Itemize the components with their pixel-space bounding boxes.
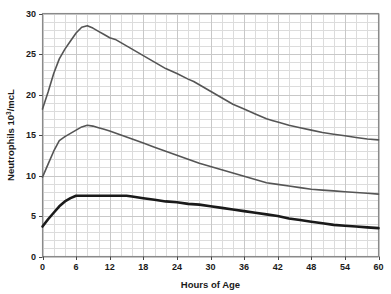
x-axis-tick-labels: 06121824303642485460 [40, 262, 384, 272]
x-tick-label: 48 [306, 262, 316, 272]
y-tick-label: 20 [26, 90, 36, 100]
y-tick-label: 0 [31, 252, 36, 262]
y-axis-tick-labels: 051015202530 [26, 9, 36, 262]
x-tick-label: 60 [373, 262, 383, 272]
series-line-upper-limit-curve [43, 26, 379, 140]
y-tick-label: 30 [26, 9, 36, 19]
x-tick-label: 6 [74, 262, 79, 272]
y-axis-title-text: Neutrophils 103/mcL [5, 89, 16, 181]
y-tick-label: 5 [31, 211, 36, 221]
x-tick-label: 54 [340, 262, 350, 272]
x-axis-title-text: Hours of Age [181, 279, 240, 290]
chart-canvas: 06121824303642485460 051015202530 Hours … [0, 0, 391, 294]
data-series-group [43, 26, 379, 229]
x-tick-label: 0 [40, 262, 45, 272]
major-gridlines [43, 14, 380, 258]
y-tick-label: 25 [26, 49, 36, 59]
y-axis-title: Neutrophils 103/mcL [5, 89, 16, 181]
x-tick-label: 36 [239, 262, 249, 272]
y-tick-label: 15 [26, 130, 36, 140]
x-tick-label: 24 [172, 262, 182, 272]
x-tick-label: 12 [105, 262, 115, 272]
x-tick-label: 18 [138, 262, 148, 272]
x-axis-title: Hours of Age [181, 279, 240, 290]
x-tick-label: 42 [273, 262, 283, 272]
neutrophil-reference-chart: 06121824303642485460 051015202530 Hours … [0, 0, 391, 294]
y-tick-label: 10 [26, 171, 36, 181]
x-tick-label: 30 [205, 262, 215, 272]
